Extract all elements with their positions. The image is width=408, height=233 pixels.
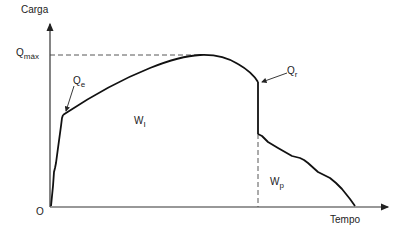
q-max-main: Q [16, 47, 24, 58]
q-e-main: Q [73, 75, 81, 86]
x-axis-label: Tempo [330, 214, 360, 225]
w-i-label: WI [134, 115, 146, 126]
origin-label: O [36, 206, 44, 217]
q-e-label: Qe [73, 75, 85, 86]
w-i-sub: I [143, 120, 145, 129]
q-e-sub: e [81, 80, 85, 89]
load-time-diagram [0, 0, 408, 233]
q-r-main: Q [287, 65, 295, 76]
load-curve-plastic [63, 55, 258, 115]
q-max-sub: máx [24, 52, 39, 61]
q-r-pointer [262, 73, 287, 82]
y-axis-label: Carga [21, 4, 48, 15]
w-p-label: Wp [270, 176, 284, 187]
q-e-pointer [66, 86, 74, 111]
w-p-sub: p [279, 181, 283, 190]
q-max-label: Qmáx [16, 47, 39, 58]
load-curve-elastic [51, 115, 63, 206]
load-curve-post-fracture [258, 134, 355, 206]
q-r-label: Qr [287, 65, 297, 76]
